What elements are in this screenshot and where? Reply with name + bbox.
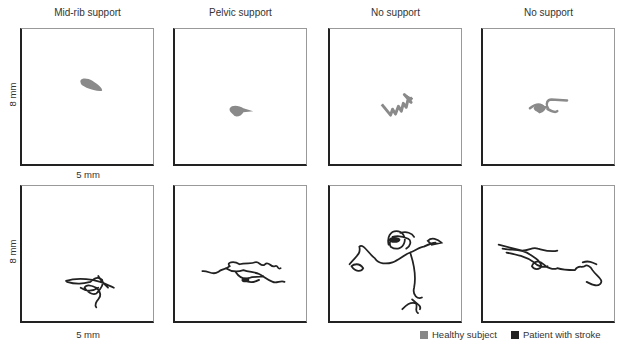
panel-stroke-nosupport-2: [481, 185, 615, 323]
panel-healthy-nosupport-2: [481, 28, 615, 166]
x-axis-label-top: 5 mm: [58, 169, 118, 180]
legend-label-stroke: Patient with stroke: [523, 329, 601, 340]
legend-item-healthy: Healthy subject: [420, 329, 497, 340]
x-axis-label-bottom: 5 mm: [58, 329, 118, 340]
trace-stroke-pelvic: [175, 186, 306, 321]
trace-stroke-nosupport-2: [483, 186, 614, 321]
y-axis-label-top: 8 mm: [7, 75, 18, 115]
column-title-4: No support: [481, 7, 616, 18]
trace-healthy-nosupport-2: [483, 29, 614, 164]
trace-healthy-nosupport-1: [330, 29, 461, 164]
panel-healthy-pelvic: [173, 28, 307, 166]
y-axis-label-bottom: 8 mm: [7, 232, 18, 272]
panel-healthy-nosupport-1: [328, 28, 462, 166]
legend-label-healthy: Healthy subject: [432, 329, 497, 340]
column-title-3: No support: [328, 7, 463, 18]
trace-stroke-midrib: [22, 186, 153, 321]
panel-healthy-midrib: [20, 28, 154, 166]
trace-healthy-pelvic: [175, 29, 306, 164]
panel-stroke-nosupport-1: [328, 185, 462, 323]
trace-healthy-midrib: [22, 29, 153, 164]
healthy-swatch-icon: [420, 331, 428, 339]
column-title-2: Pelvic support: [173, 7, 308, 18]
panel-stroke-pelvic: [173, 185, 307, 323]
panel-stroke-midrib: [20, 185, 154, 323]
stroke-swatch-icon: [511, 331, 519, 339]
trace-stroke-nosupport-1: [330, 186, 461, 321]
legend-item-stroke: Patient with stroke: [511, 329, 601, 340]
legend: Healthy subject Patient with stroke: [420, 329, 601, 340]
column-title-1: Mid-rib support: [20, 7, 155, 18]
